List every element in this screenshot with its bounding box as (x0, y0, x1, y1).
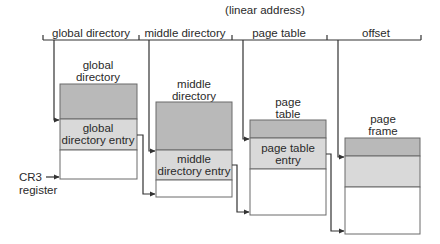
arrow-pt-to-frame (326, 154, 344, 231)
svg-text:directory entry: directory entry (62, 134, 135, 146)
page-frame-title-1: page (370, 113, 396, 125)
svg-text:directory entry: directory entry (158, 165, 231, 177)
arrow-gd-to-md (137, 135, 155, 194)
svg-text:entry: entry (275, 154, 301, 166)
page-frame-title-2: frame (368, 125, 397, 137)
page-table-title-1: page (275, 96, 301, 108)
field-global-directory: global directory (52, 27, 130, 39)
linear-address-bar: global directory middle directory page t… (43, 27, 421, 40)
diagram-title: (linear address) (225, 4, 305, 16)
arrow-page-table-index (243, 40, 249, 139)
global-directory-table: global directory global directory entry (60, 59, 137, 179)
middle-directory-title-1: middle (177, 78, 211, 90)
arrow-md-to-pt (232, 165, 249, 212)
page-frame-byte (345, 156, 420, 187)
field-middle-directory: middle directory (144, 27, 225, 39)
arrow-offset (338, 40, 344, 157)
svg-text:page table: page table (261, 142, 315, 154)
cr3-label: CR3 (19, 171, 42, 183)
global-directory-title-2: directory (76, 71, 120, 83)
cr3-register: CR3 register (19, 171, 59, 196)
paging-diagram: (linear address) global directory middle… (0, 0, 440, 244)
svg-text:middle: middle (177, 153, 211, 165)
field-offset: offset (362, 27, 391, 39)
page-table: page table page table entry (250, 96, 326, 215)
global-directory-title-1: global (83, 59, 114, 71)
arrow-middle-index (149, 40, 155, 151)
page-table-title-2: table (276, 108, 301, 120)
middle-directory-table: middle directory middle directory entry (156, 78, 232, 197)
middle-directory-title-2: directory (172, 90, 216, 102)
field-page-table: page table (252, 27, 306, 39)
register-label: register (19, 184, 58, 196)
svg-text:global: global (83, 122, 114, 134)
page-frame: page frame (345, 113, 420, 234)
arrow-global-index (54, 40, 59, 120)
